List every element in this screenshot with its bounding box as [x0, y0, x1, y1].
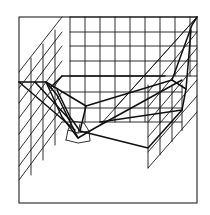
outer-frame	[19, 17, 197, 203]
left-wall-diagonal	[19, 46, 62, 103]
folded-surface-lines	[19, 17, 197, 148]
wireframe-svg	[0, 0, 210, 215]
left-wall-diagonal	[19, 61, 62, 118]
left-wall-diagonal	[19, 108, 62, 166]
frame-rect	[19, 17, 197, 203]
surface-edge	[172, 17, 197, 80]
left-wall-diagonal	[19, 122, 62, 180]
left-wall-diagonal	[19, 17, 62, 72]
right-panel-diagonal	[148, 80, 197, 137]
wireframe-diagram	[0, 0, 210, 215]
left-wall-grid	[19, 17, 62, 180]
back-wall-grid	[70, 17, 197, 76]
right-panel-diagonal	[148, 96, 197, 152]
left-wall-diagonal	[19, 32, 62, 88]
